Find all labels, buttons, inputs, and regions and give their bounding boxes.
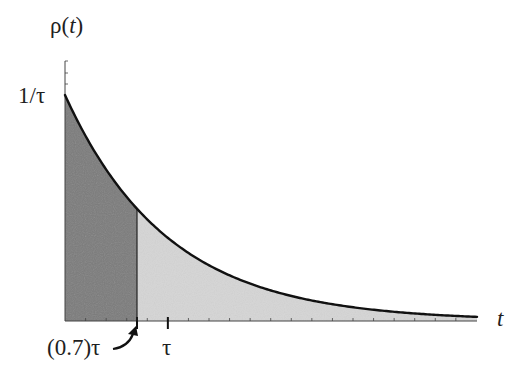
y-axis-label-rho: ρ( (50, 13, 69, 38)
dark-shaded-region (65, 95, 137, 321)
y-tick-label-one-over-tau: 1/τ (18, 84, 45, 107)
x-tick-label-tau: τ (162, 336, 171, 359)
light-shaded-region (137, 209, 477, 321)
y-axis-label-close: ) (76, 13, 84, 38)
y-axis-label: ρ(t) (50, 14, 83, 37)
arrow-shaft (113, 334, 133, 349)
shaded-regions (65, 95, 477, 321)
decay-probability-chart: ρ(t) 1/τ t (0.7)τ τ (0, 0, 530, 381)
x-axis-label: t (497, 307, 503, 330)
plot-area (0, 0, 530, 381)
x-tick-label-07tau: (0.7)τ (47, 336, 100, 359)
annotation-arrow-icon (113, 326, 138, 349)
